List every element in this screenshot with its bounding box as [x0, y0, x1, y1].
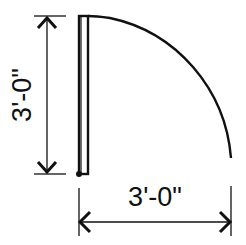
door-panel [79, 16, 88, 174]
vertical-dimension [34, 16, 66, 174]
vertical-dimension-label: 3'-0" [7, 68, 37, 122]
door-swing-diagram: 3'-0" 3'-0" [0, 0, 246, 245]
door-swing-arc [88, 16, 231, 158]
door-leaf [79, 16, 88, 174]
hinge-point-icon [76, 171, 82, 177]
horizontal-dimension-label: 3'-0" [128, 182, 182, 212]
